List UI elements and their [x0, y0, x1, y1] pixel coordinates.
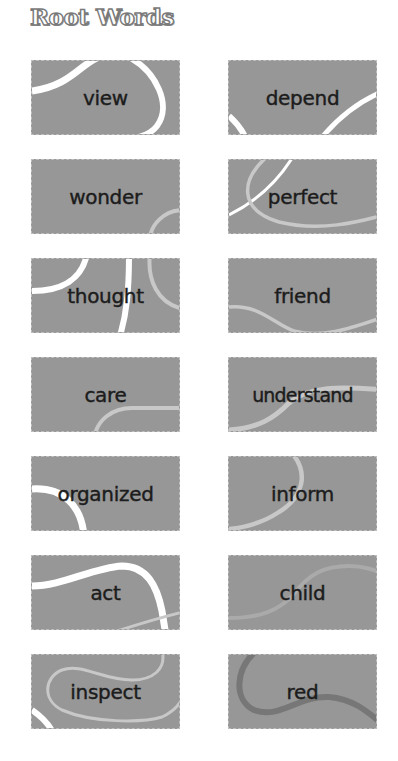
word-card-thought[interactable]: thought	[31, 258, 180, 333]
word-card-care[interactable]: care	[31, 357, 180, 432]
word-card-wonder[interactable]: wonder	[31, 159, 180, 234]
word-label: inspect	[32, 655, 179, 728]
page-title: Root Words	[30, 2, 174, 32]
word-card-depend[interactable]: depend	[228, 60, 377, 135]
word-label: care	[32, 358, 179, 431]
word-card-friend[interactable]: friend	[228, 258, 377, 333]
word-label: act	[32, 556, 179, 629]
word-label: view	[32, 61, 179, 134]
word-card-understand[interactable]: understand	[228, 357, 377, 432]
word-card-perfect[interactable]: perfect	[228, 159, 377, 234]
word-card-view[interactable]: view	[31, 60, 180, 135]
word-label: inform	[229, 457, 376, 530]
word-card-child[interactable]: child	[228, 555, 377, 630]
word-label: child	[229, 556, 376, 629]
word-label: wonder	[32, 160, 179, 233]
word-label: depend	[229, 61, 376, 134]
word-card-inform[interactable]: inform	[228, 456, 377, 531]
word-card-inspect[interactable]: inspect	[31, 654, 180, 729]
word-card-act[interactable]: act	[31, 555, 180, 630]
word-label: friend	[229, 259, 376, 332]
word-label: perfect	[229, 160, 376, 233]
word-card-red[interactable]: red	[228, 654, 377, 729]
word-label: organized	[32, 457, 179, 530]
word-card-organized[interactable]: organized	[31, 456, 180, 531]
word-label: red	[229, 655, 376, 728]
word-label: thought	[32, 259, 179, 332]
word-label: understand	[229, 358, 376, 431]
